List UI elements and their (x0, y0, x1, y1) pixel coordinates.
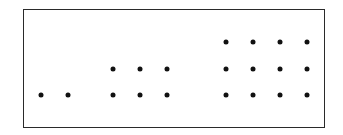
dot (251, 40, 256, 45)
dot (305, 40, 310, 45)
dot (138, 93, 143, 98)
dot (224, 40, 229, 45)
dot (278, 40, 283, 45)
dot (39, 93, 44, 98)
dot (111, 67, 116, 72)
dot (138, 67, 143, 72)
dot (251, 93, 256, 98)
dot (305, 67, 310, 72)
dot (251, 67, 256, 72)
dot (165, 67, 170, 72)
dot (224, 93, 229, 98)
dot (278, 93, 283, 98)
dot (165, 93, 170, 98)
dot (278, 67, 283, 72)
dot (305, 93, 310, 98)
dot (111, 93, 116, 98)
dot (66, 93, 71, 98)
dot (224, 67, 229, 72)
